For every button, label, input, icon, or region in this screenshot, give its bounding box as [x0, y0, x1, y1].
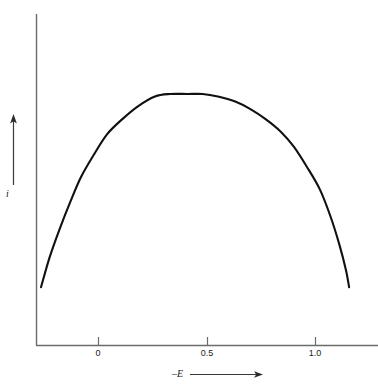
y-axis-label: i	[6, 188, 9, 199]
x-axis-label: –E	[172, 368, 183, 379]
x-axis-ticks	[99, 337, 316, 345]
y-axis-direction-arrow	[10, 114, 17, 185]
figure-panel: i –E 0 0.5 1.0	[0, 0, 378, 387]
x-tick-label-0-5: 0.5	[187, 348, 227, 359]
x-tick-label-1-0: 1.0	[295, 348, 335, 359]
plot-canvas	[0, 0, 378, 387]
x-axis-direction-arrow	[190, 371, 263, 378]
peak-current-curve	[41, 94, 349, 287]
x-tick-label-0: 0	[78, 348, 118, 359]
